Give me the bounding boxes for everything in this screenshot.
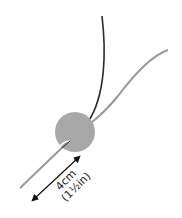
dark-cord: [88, 16, 104, 122]
bead-measurement-diagram: 4cm (1½in): [0, 0, 182, 218]
